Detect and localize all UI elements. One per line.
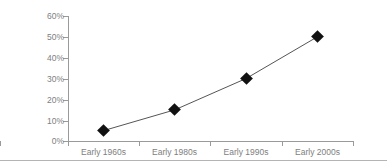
bottom-divider — [0, 160, 387, 161]
series-line — [0, 0, 387, 168]
line-chart: 60% 50% 40% 30% 20% 10% 0% Early 1960s E… — [0, 0, 387, 168]
chart-screenshot: 60% 50% 40% 30% 20% 10% 0% Early 1960s E… — [0, 0, 387, 168]
